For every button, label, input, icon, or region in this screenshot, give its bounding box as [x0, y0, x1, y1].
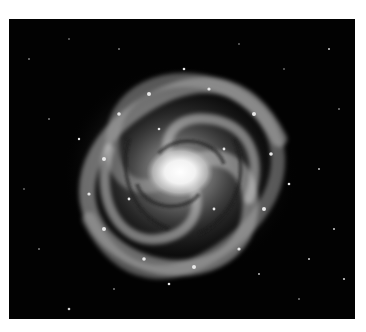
galaxy-illustration: [9, 19, 355, 319]
galaxy-core: [146, 146, 214, 198]
galaxy-photo: [9, 19, 355, 319]
